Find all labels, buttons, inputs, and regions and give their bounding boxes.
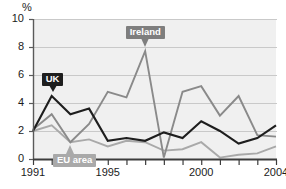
y-axis-tick-label: 8: [2, 40, 24, 52]
series-label-ireland-pointer: [141, 38, 149, 47]
y-axis-tick-label: 2: [2, 124, 24, 136]
y-axis-ticks: [29, 20, 33, 160]
x-axis-tick-label: 2000: [184, 166, 218, 178]
y-axis-tick-label: 4: [2, 96, 24, 108]
series-label-uk-pointer: [49, 85, 57, 92]
x-axis-tick-label: 1995: [91, 166, 125, 178]
x-axis-tick-label: 2004: [259, 166, 286, 178]
series-label-eu-area-pointer: [66, 145, 74, 154]
y-axis-tick-label: 0: [2, 152, 24, 164]
x-axis-tick-label: 1991: [16, 166, 50, 178]
series-label-eu-area: EU area: [53, 154, 96, 167]
line-chart: % 0246810 1991199520002004 UK Ireland EU…: [0, 0, 286, 189]
plot-background: [33, 19, 276, 159]
y-axis-tick-label: 6: [2, 68, 24, 80]
y-axis-tick-label: 10: [2, 12, 24, 24]
